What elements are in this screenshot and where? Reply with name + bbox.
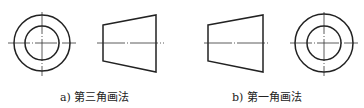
panel-a-front-view xyxy=(97,15,164,72)
panel-a-caption: a) 第三角画法 xyxy=(60,88,129,104)
panel-b-end-view xyxy=(290,12,358,76)
panel-a-end-view xyxy=(8,12,76,76)
panel-b-trapezoid xyxy=(208,15,263,72)
panel-b-caption: b) 第一角画法 xyxy=(232,88,302,104)
projection-diagram xyxy=(0,0,364,108)
panel-a-trapezoid xyxy=(103,15,156,72)
panel-b-front-view xyxy=(204,15,270,72)
